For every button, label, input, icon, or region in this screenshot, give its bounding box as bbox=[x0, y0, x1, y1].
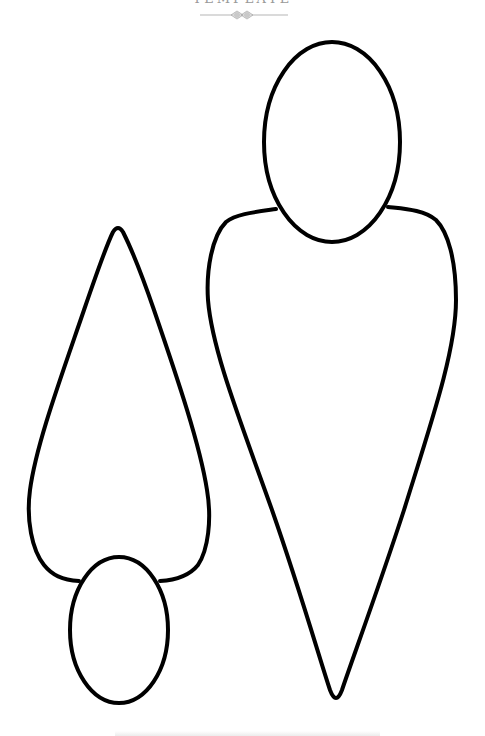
small-figure-body bbox=[29, 228, 209, 581]
small-figure-head bbox=[70, 557, 168, 703]
large-figure-body bbox=[208, 207, 456, 698]
large-figure-head bbox=[264, 42, 400, 242]
page-bottom-edge bbox=[115, 731, 380, 736]
figures-artwork bbox=[0, 0, 485, 736]
